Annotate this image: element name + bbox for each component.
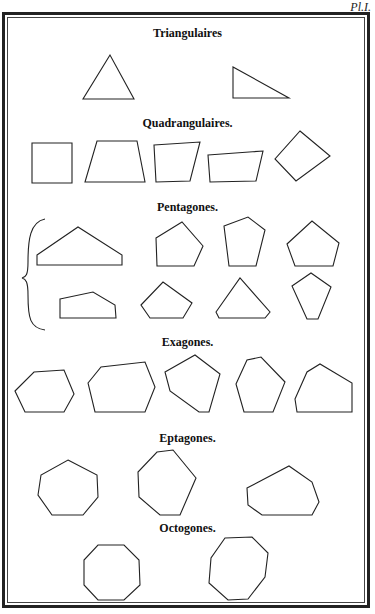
- eptagones-polygon-1: [38, 460, 98, 515]
- pentagones-polygon-2: [156, 222, 203, 266]
- quadrangulaires-polygon-2: [85, 141, 145, 182]
- pentagones-polygon-8: [292, 273, 331, 319]
- eptagones-polygon-3: [247, 466, 319, 515]
- polygon-figures: [0, 0, 375, 614]
- triangulaires-polygon-2: [233, 67, 289, 98]
- shape-group-octogones: [84, 537, 268, 600]
- exagones-polygon-2: [88, 362, 155, 412]
- pentagones-polygon-5: [60, 292, 116, 318]
- curly-brace-icon: [22, 219, 45, 330]
- exagones-polygon-1: [15, 370, 74, 412]
- quadrangulaires-polygon-3: [154, 142, 200, 182]
- exagones-polygon-5: [295, 364, 352, 412]
- pentagones-polygon-4: [287, 221, 339, 266]
- shape-group-triangulaires: [83, 55, 289, 99]
- exagones-polygon-4: [236, 357, 285, 412]
- eptagones-polygon-2: [138, 450, 196, 515]
- quadrangulaires-polygon-1: [32, 143, 72, 183]
- shape-group-exagones: [15, 355, 352, 412]
- triangulaires-polygon-1: [83, 55, 134, 99]
- shape-group-eptagones: [38, 450, 319, 515]
- pentagones-polygon-7: [216, 278, 270, 318]
- pentagones-polygon-3: [224, 217, 265, 266]
- octogones-polygon-1: [84, 545, 140, 600]
- pentagones-polygon-6: [141, 282, 192, 318]
- shape-group-pentagones: [37, 217, 339, 319]
- quadrangulaires-polygon-5: [275, 131, 330, 181]
- exagones-polygon-3: [165, 355, 220, 412]
- pentagones-polygon-1: [37, 227, 122, 265]
- octogones-polygon-2: [209, 537, 268, 600]
- quadrangulaires-polygon-4: [208, 151, 263, 182]
- shape-group-quadrangulaires: [32, 131, 330, 183]
